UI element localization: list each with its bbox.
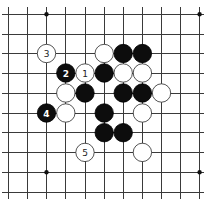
move-number-label: 1 [82,69,88,79]
black-stone-icon [133,44,151,62]
black-stone [114,124,132,142]
white-stone-icon [133,104,151,122]
white-stone: 5 [76,143,94,161]
white-stone-icon [114,64,132,82]
white-stone [114,64,132,82]
star-point-icon [197,170,201,174]
white-stone-icon [133,143,151,161]
star-point-icon [44,12,48,16]
white-stone-icon [57,84,75,102]
white-stone [152,84,170,102]
white-stone: 1 [76,64,94,82]
white-stone [57,104,75,122]
black-stone-icon [95,64,113,82]
white-stone [133,64,151,82]
black-stone-icon [114,44,132,62]
white-stone [133,104,151,122]
black-stone-icon [76,84,94,102]
black-stone [95,124,113,142]
move-number-label: 2 [63,69,69,79]
black-stone-icon [114,124,132,142]
go-board: 32145 [0,0,204,202]
black-stone [133,44,151,62]
star-point-icon [44,170,48,174]
move-number-label: 4 [43,109,49,119]
black-stone: 2 [57,64,75,82]
black-stone [114,44,132,62]
black-stone [95,64,113,82]
move-number-label: 3 [44,49,50,59]
white-stone [57,84,75,102]
black-stone-icon [114,84,132,102]
black-stone [95,104,113,122]
black-stone-icon [95,104,113,122]
white-stone-icon [57,104,75,122]
grid-lines [2,7,204,199]
black-stone [76,84,94,102]
white-stone-icon [152,84,170,102]
black-stone-icon [133,84,151,102]
white-stone: 3 [37,44,55,62]
white-stone [95,44,113,62]
white-stone-icon [133,64,151,82]
black-stone: 4 [37,104,55,122]
white-stone [133,143,151,161]
black-stone-icon [95,124,113,142]
black-stone [114,84,132,102]
black-stone [133,84,151,102]
move-number-label: 5 [82,148,88,158]
white-stone-icon [95,44,113,62]
star-point-icon [197,12,201,16]
